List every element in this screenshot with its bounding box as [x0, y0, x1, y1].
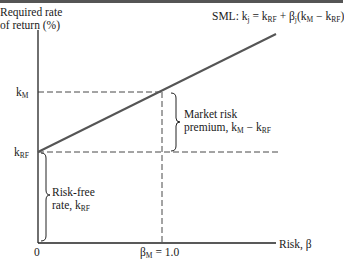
market-premium-brace: [171, 93, 180, 151]
krf-tick-label: kRF: [14, 146, 29, 162]
sml-equation: SML: kj = kRF + βj(kM − kRF): [212, 10, 344, 26]
betam-tick-label: βM = 1.0: [140, 246, 179, 262]
km-tick-label: kM: [16, 86, 28, 102]
market-risk-premium-annotation: Market risk premium, kM − kRF: [184, 108, 271, 137]
y-axis-label: Required rate of return (%): [0, 6, 62, 32]
x-axis-label: Risk, β: [279, 238, 312, 250]
risk-free-rate-annotation: Risk-free rate, kRF: [52, 186, 95, 215]
risk-free-brace: [41, 153, 50, 241]
origin-label: 0: [34, 246, 40, 258]
